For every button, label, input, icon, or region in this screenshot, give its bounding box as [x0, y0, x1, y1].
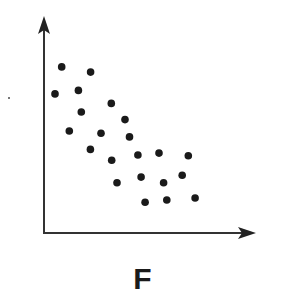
- data-point: [51, 90, 59, 98]
- stray-speck: [8, 97, 10, 99]
- data-point: [58, 63, 66, 71]
- data-point: [185, 152, 193, 160]
- y-axis: [38, 16, 50, 233]
- data-point: [134, 151, 142, 159]
- data-point: [78, 108, 86, 116]
- data-point: [75, 87, 83, 95]
- scatter-plot: [0, 0, 289, 302]
- data-point: [163, 196, 171, 204]
- data-point: [137, 173, 145, 181]
- data-point: [160, 179, 168, 187]
- data-point: [178, 172, 186, 180]
- data-point: [141, 199, 149, 207]
- data-point: [87, 146, 95, 154]
- data-point: [126, 133, 134, 141]
- data-point: [97, 129, 105, 137]
- data-point: [66, 127, 74, 135]
- data-point: [121, 116, 129, 124]
- x-axis: [43, 227, 256, 239]
- data-point: [191, 194, 199, 202]
- panel-label: F: [0, 262, 287, 296]
- data-point: [87, 68, 95, 76]
- data-point: [108, 156, 116, 164]
- data-points: [51, 63, 199, 206]
- data-point: [155, 149, 163, 157]
- data-point: [113, 179, 121, 187]
- data-point: [108, 100, 116, 108]
